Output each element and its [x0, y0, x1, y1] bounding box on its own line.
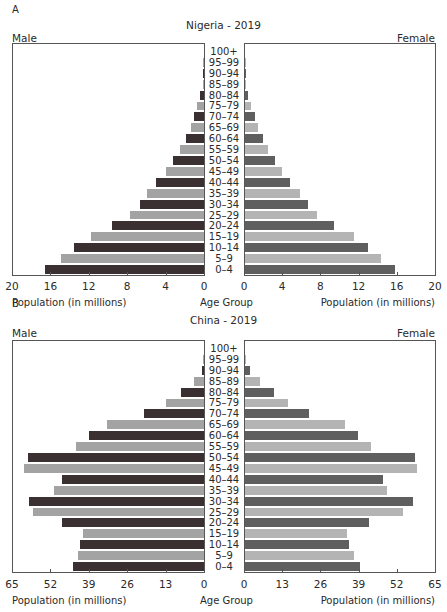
age-group-label: 5–9 [204, 550, 244, 561]
male-bar [91, 232, 204, 241]
age-group-label: 50–54 [204, 452, 244, 463]
male-bar [144, 409, 204, 418]
male-bar [197, 102, 204, 111]
male-label: Male [12, 327, 37, 339]
male-bar [191, 123, 204, 132]
male-bar [62, 518, 204, 527]
female-x-tick-label: 20 [420, 280, 447, 292]
female-bar [245, 102, 251, 111]
female-bar [245, 69, 246, 78]
female-bar [245, 58, 246, 67]
x-tick [50, 569, 51, 573]
female-bar [245, 551, 354, 560]
female-bar [245, 442, 371, 451]
age-group-label: 45–49 [204, 463, 244, 474]
age-group-axis-title: Age Group [200, 595, 253, 606]
male-x-tick-label: 13 [151, 578, 181, 590]
female-bar [245, 431, 358, 440]
female-x-tick-label: 16 [382, 280, 412, 292]
male-bar [181, 388, 204, 397]
male-x-tick-label: 52 [35, 578, 65, 590]
x-tick [244, 272, 245, 276]
female-x-tick-label: 26 [305, 578, 335, 590]
female-bar [245, 156, 275, 165]
age-group-label: 95–99 [204, 354, 244, 365]
female-bar [245, 80, 246, 89]
female-bar [245, 562, 360, 571]
female-label: Female [397, 327, 435, 339]
chart-title: China - 2019 [0, 314, 447, 326]
female-bar [245, 167, 282, 176]
x-tick [127, 569, 128, 573]
female-bar [245, 420, 345, 429]
female-x-tick-label: 13 [267, 578, 297, 590]
age-group-label: 75–79 [204, 397, 244, 408]
female-x-axis-title: Population (in millions) [321, 297, 435, 308]
male-x-axis [12, 275, 205, 276]
age-group-axis-title: Age Group [200, 297, 253, 308]
panel-letter: B [12, 298, 19, 309]
female-x-tick-label: 8 [305, 280, 335, 292]
male-x-tick-label: 0 [189, 280, 219, 292]
male-bar [140, 200, 204, 209]
female-bar [245, 497, 413, 506]
male-bar [28, 453, 204, 462]
age-group-label: 10–14 [204, 242, 244, 253]
male-x-tick-label: 12 [74, 280, 104, 292]
male-bar [74, 243, 204, 252]
x-tick [127, 272, 128, 276]
age-group-label: 70–74 [204, 111, 244, 122]
female-bar [245, 123, 258, 132]
female-x-axis [244, 275, 436, 276]
male-x-tick-label: 65 [0, 578, 27, 590]
x-tick [50, 272, 51, 276]
age-group-label: 45–49 [204, 166, 244, 177]
age-group-label: 15–19 [204, 528, 244, 539]
age-group-label: 55–59 [204, 144, 244, 155]
female-bar [245, 475, 383, 484]
female-x-axis [244, 572, 436, 573]
female-bar [245, 508, 403, 517]
male-x-axis-title: Population (in millions) [12, 595, 126, 606]
age-group-label: 95–99 [204, 57, 244, 68]
female-bar [245, 529, 347, 538]
age-group-label: 10–14 [204, 539, 244, 550]
age-group-label: 0–4 [204, 561, 244, 572]
male-bar [78, 551, 204, 560]
male-bar [194, 112, 204, 121]
x-tick [166, 569, 167, 573]
female-bar [245, 453, 415, 462]
x-tick [12, 272, 13, 276]
female-bar [245, 232, 354, 241]
female-bar [245, 221, 334, 230]
male-bar [166, 399, 204, 408]
x-tick [435, 569, 436, 573]
male-bar [130, 211, 204, 220]
x-tick [166, 272, 167, 276]
age-group-label: 50–54 [204, 155, 244, 166]
male-x-tick-label: 16 [35, 280, 65, 292]
age-group-label: 75–79 [204, 100, 244, 111]
female-bar [245, 377, 260, 386]
x-tick [244, 569, 245, 573]
female-bar [245, 540, 349, 549]
x-tick [320, 569, 321, 573]
age-group-label: 65–69 [204, 122, 244, 133]
male-bar [180, 145, 204, 154]
female-bar [245, 355, 246, 364]
male-bar [24, 464, 204, 473]
female-bar [245, 464, 417, 473]
age-group-label: 65–69 [204, 419, 244, 430]
x-tick [282, 272, 283, 276]
female-bar [245, 112, 255, 121]
female-x-axis-title: Population (in millions) [321, 595, 435, 606]
age-group-label: 55–59 [204, 441, 244, 452]
age-group-label: 90–94 [204, 365, 244, 376]
male-bar [107, 420, 204, 429]
x-tick [435, 272, 436, 276]
female-x-tick-label: 4 [267, 280, 297, 292]
female-x-tick-label: 52 [382, 578, 412, 590]
age-group-label: 60–64 [204, 133, 244, 144]
age-group-label: 40–44 [204, 177, 244, 188]
panel-letter: A [12, 4, 19, 15]
